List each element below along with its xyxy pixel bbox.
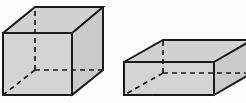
solids-diagram — [0, 0, 246, 103]
shape-cube — [3, 7, 103, 95]
prism-front-face — [124, 62, 214, 95]
shape-rectangular-prism — [124, 40, 246, 95]
figure-canvas — [0, 0, 246, 103]
cube-front-face — [3, 33, 72, 95]
